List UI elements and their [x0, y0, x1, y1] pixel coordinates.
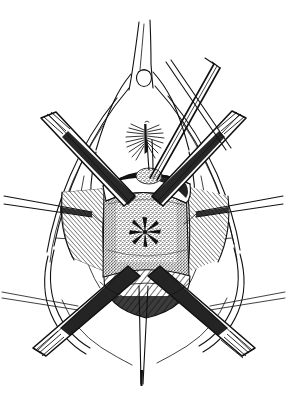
surgical-illustration-figure: perineal surgical exposure with retracto… — [0, 0, 287, 399]
illustration-canvas — [0, 0, 287, 399]
small-round-orifice — [137, 70, 152, 87]
stellate-opening — [129, 217, 161, 247]
